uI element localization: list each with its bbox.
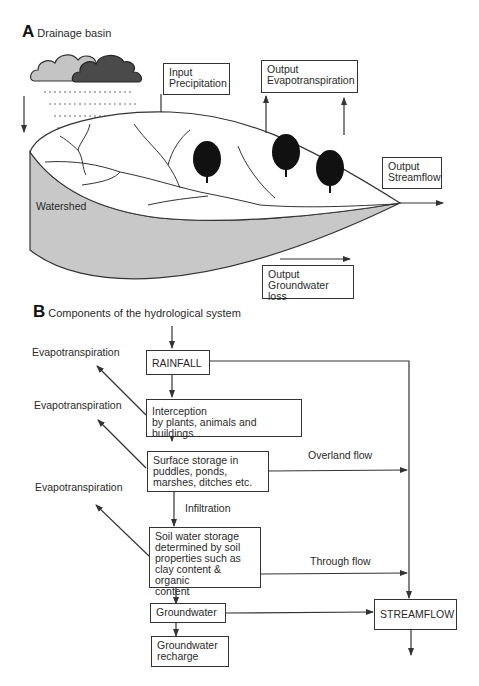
through-flow-label: Through flow bbox=[310, 556, 371, 567]
panel-a-title: ADrainage basin bbox=[22, 22, 111, 42]
output-groundwater-loss-box: Output Groundwater loss bbox=[262, 265, 354, 299]
cloud-icon bbox=[31, 55, 142, 82]
interception-box: Interception by plants, animals and buil… bbox=[146, 399, 302, 437]
overland-flow-label: Overland flow bbox=[308, 450, 372, 461]
panel-b-title: BComponents of the hydrological system bbox=[33, 302, 241, 322]
streamflow-box: STREAMFLOW bbox=[374, 599, 457, 630]
output-evapotranspiration-box: Output Evapotranspiration bbox=[261, 60, 358, 93]
evapotranspiration-label-1: Evapotranspiration bbox=[32, 347, 120, 358]
output-streamflow-box: Output Streamflow bbox=[382, 157, 442, 189]
soil-water-storage-box: Soil water storage determined by soil pr… bbox=[149, 527, 261, 588]
groundwater-box: Groundwater bbox=[150, 603, 226, 623]
evapotranspiration-label-2: Evapotranspiration bbox=[34, 400, 122, 411]
groundwater-recharge-box: Groundwater recharge bbox=[151, 636, 229, 667]
surface-storage-box: Surface storage in puddles, ponds, marsh… bbox=[147, 451, 269, 492]
watershed-label: Watershed bbox=[36, 201, 86, 212]
infiltration-label: Infiltration bbox=[185, 503, 231, 514]
input-precipitation-box: Input Precipitation bbox=[163, 63, 230, 95]
evapotranspiration-label-3: Evapotranspiration bbox=[35, 482, 123, 493]
rainfall-box: RAINFALL bbox=[146, 350, 210, 375]
